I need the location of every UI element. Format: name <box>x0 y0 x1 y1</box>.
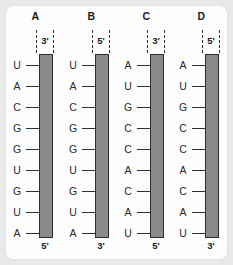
base-tick-icon <box>137 128 151 129</box>
base-letter: U <box>121 226 135 240</box>
rna-strand-figure: A 3' 5' U A C G G <box>6 6 227 259</box>
base-row: G <box>64 184 119 198</box>
column-header-b: B <box>64 10 119 22</box>
strand-columns: A 3' 5' U A C G G <box>6 6 227 259</box>
base-tick-icon <box>82 86 96 87</box>
base-tick-icon <box>26 233 40 234</box>
base-row: G <box>64 142 119 156</box>
base-tick-icon <box>192 170 206 171</box>
base-row: U <box>174 79 229 93</box>
bottom-end-label-c: 5' <box>145 240 167 251</box>
base-row: U <box>174 226 229 240</box>
base-row: A <box>119 163 174 177</box>
base-letter: U <box>66 58 80 72</box>
base-row: G <box>8 142 63 156</box>
base-tick-icon <box>192 128 206 129</box>
base-letter: C <box>176 184 190 198</box>
base-letter: A <box>121 205 135 219</box>
base-letter: C <box>121 184 135 198</box>
base-row: U <box>8 205 63 219</box>
base-row: U <box>64 205 119 219</box>
base-row: A <box>64 79 119 93</box>
base-row: C <box>119 121 174 135</box>
base-tick-icon <box>82 128 96 129</box>
top-end-label-b: 5' <box>90 35 112 46</box>
base-row: C <box>119 142 174 156</box>
base-row: U <box>119 226 174 240</box>
column-header-a: A <box>8 10 63 22</box>
base-tick-icon <box>82 191 96 192</box>
base-letter: A <box>176 163 190 177</box>
bottom-end-label-d: 3' <box>200 240 222 251</box>
base-row: U <box>119 79 174 93</box>
base-tick-icon <box>192 233 206 234</box>
base-letter: A <box>10 79 24 93</box>
base-tick-icon <box>192 65 206 66</box>
base-row: C <box>174 121 229 135</box>
base-letter: G <box>10 121 24 135</box>
strand-column-c: C 3' 5' A U G C C <box>119 6 174 259</box>
base-row: U <box>8 58 63 72</box>
base-letter: U <box>66 163 80 177</box>
base-row: A <box>8 79 63 93</box>
base-row: A <box>8 226 63 240</box>
base-letter: G <box>121 100 135 114</box>
base-letter: G <box>66 142 80 156</box>
base-row: G <box>8 121 63 135</box>
base-row: C <box>174 142 229 156</box>
base-letter: U <box>121 79 135 93</box>
top-end-label-d: 5' <box>200 35 222 46</box>
base-tick-icon <box>26 149 40 150</box>
base-tick-icon <box>137 65 151 66</box>
base-letter: C <box>121 142 135 156</box>
base-tick-icon <box>192 191 206 192</box>
base-tick-icon <box>26 128 40 129</box>
base-letter: G <box>66 184 80 198</box>
base-letter: A <box>176 205 190 219</box>
base-tick-icon <box>82 233 96 234</box>
base-tick-icon <box>192 212 206 213</box>
base-row: U <box>8 163 63 177</box>
base-letter: C <box>10 100 24 114</box>
base-letter: A <box>121 58 135 72</box>
base-letter: A <box>121 163 135 177</box>
base-row: C <box>174 184 229 198</box>
base-row: C <box>64 100 119 114</box>
strand-column-b: B 5' 3' U A C G G <box>64 6 119 259</box>
column-header-c: C <box>119 10 174 22</box>
base-letter: U <box>10 58 24 72</box>
base-row: A <box>174 205 229 219</box>
base-letter: A <box>66 79 80 93</box>
base-letter: U <box>66 205 80 219</box>
base-letter: G <box>10 142 24 156</box>
base-letter: C <box>66 100 80 114</box>
bottom-end-label-a: 5' <box>34 240 56 251</box>
base-row: G <box>8 184 63 198</box>
base-letter: G <box>66 121 80 135</box>
base-tick-icon <box>137 86 151 87</box>
base-tick-icon <box>82 170 96 171</box>
base-letter: C <box>176 121 190 135</box>
base-letter: U <box>10 163 24 177</box>
base-tick-icon <box>82 212 96 213</box>
base-tick-icon <box>192 107 206 108</box>
base-letter: G <box>176 100 190 114</box>
base-tick-icon <box>26 212 40 213</box>
base-row: U <box>64 58 119 72</box>
base-row: C <box>8 100 63 114</box>
column-header-d: D <box>174 10 229 22</box>
base-row: G <box>174 100 229 114</box>
base-tick-icon <box>137 212 151 213</box>
base-letter: C <box>176 142 190 156</box>
base-tick-icon <box>26 65 40 66</box>
base-row: G <box>119 100 174 114</box>
base-tick-icon <box>192 86 206 87</box>
base-row: A <box>119 58 174 72</box>
base-row: A <box>64 226 119 240</box>
base-row: A <box>174 163 229 177</box>
base-row: A <box>174 58 229 72</box>
base-tick-icon <box>26 191 40 192</box>
base-tick-icon <box>82 149 96 150</box>
base-tick-icon <box>137 191 151 192</box>
base-letter: U <box>10 205 24 219</box>
